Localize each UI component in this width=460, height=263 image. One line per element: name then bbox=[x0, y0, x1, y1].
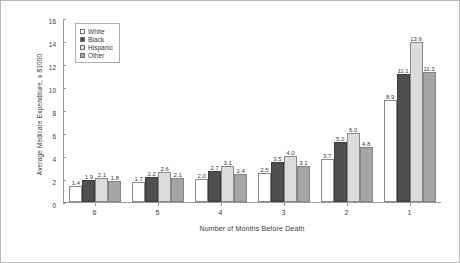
y-axis-tick-label: 8 bbox=[52, 110, 63, 117]
y-axis-tick: 10 bbox=[49, 79, 63, 97]
y-axis-tick: 4 bbox=[52, 148, 63, 166]
x-axis-tick-label: 3 bbox=[252, 203, 315, 216]
bar-value-label: 11.1 bbox=[397, 68, 408, 74]
bar[interactable]: 1.8 bbox=[108, 181, 121, 202]
y-axis-tick: 2 bbox=[52, 171, 63, 189]
bar[interactable]: 5.2 bbox=[334, 142, 347, 202]
bar[interactable]: 2.1 bbox=[95, 178, 108, 202]
bar[interactable]: 2.2 bbox=[145, 177, 158, 202]
bar-value-label: 3.1 bbox=[299, 160, 307, 166]
bar-value-label: 1.4 bbox=[72, 180, 80, 186]
bar-value-label: 3.1 bbox=[223, 160, 231, 166]
legend-swatch-icon bbox=[80, 29, 85, 34]
x-axis-tick-label: 2 bbox=[315, 203, 378, 216]
bar-value-label: 1.8 bbox=[111, 175, 119, 181]
bar-value-label: 5.2 bbox=[336, 136, 344, 142]
y-axis-tick-label: 10 bbox=[49, 87, 63, 94]
y-axis-tick-label: 0 bbox=[52, 202, 63, 209]
x-axis-tick-label: 6 bbox=[63, 203, 126, 216]
bar-value-label: 13.9 bbox=[410, 36, 422, 42]
bar[interactable]: 13.9 bbox=[410, 42, 423, 202]
x-axis-tick-mark bbox=[95, 203, 96, 206]
legend-item[interactable]: Other bbox=[80, 51, 113, 59]
x-axis-tick-mark bbox=[347, 203, 348, 206]
bar[interactable]: 6.0 bbox=[347, 133, 360, 202]
bar-value-label: 2.5 bbox=[260, 167, 268, 173]
bar-groups: 1.41.92.11.81.72.22.62.12.02.73.12.42.53… bbox=[64, 19, 441, 202]
bar-group: 8.911.113.911.3 bbox=[378, 19, 441, 202]
y-axis-tick: 14 bbox=[49, 33, 63, 51]
y-axis-tick: 8 bbox=[52, 102, 63, 120]
x-axis-tick-label: 4 bbox=[189, 203, 252, 216]
x-axis-tick-label: 5 bbox=[126, 203, 189, 216]
x-axis-tick-mark bbox=[221, 203, 222, 206]
y-axis-tick: 0 bbox=[52, 194, 63, 212]
bar-value-label: 2.1 bbox=[174, 172, 182, 178]
y-axis-tick-label: 16 bbox=[49, 18, 63, 25]
bar[interactable]: 3.1 bbox=[221, 166, 234, 202]
legend-item-label: White bbox=[88, 28, 105, 35]
legend-swatch-icon bbox=[80, 37, 85, 42]
legend-item-label: Hispanic bbox=[88, 44, 113, 51]
bar-value-label: 2.1 bbox=[98, 172, 106, 178]
bar[interactable]: 1.9 bbox=[82, 180, 95, 202]
bar[interactable]: 2.0 bbox=[195, 179, 208, 202]
y-axis-tick-label: 14 bbox=[49, 41, 63, 48]
bar[interactable]: 2.5 bbox=[258, 173, 271, 202]
y-axis-tick: 16 bbox=[49, 10, 63, 28]
bar-value-label: 6.0 bbox=[349, 127, 357, 133]
bar[interactable]: 2.7 bbox=[208, 171, 221, 202]
legend-swatch-icon bbox=[80, 45, 85, 50]
bar[interactable]: 11.1 bbox=[397, 74, 410, 202]
bar-value-label: 1.9 bbox=[85, 174, 93, 180]
bar-value-label: 2.2 bbox=[148, 171, 156, 177]
legend-item-label: Black bbox=[88, 36, 104, 43]
bar[interactable]: 2.4 bbox=[234, 174, 247, 202]
bar[interactable]: 3.1 bbox=[297, 166, 310, 202]
legend-item[interactable]: Hispanic bbox=[80, 43, 113, 51]
bar[interactable]: 8.9 bbox=[384, 100, 397, 202]
legend-item-label: Other bbox=[88, 52, 104, 59]
bar-value-label: 4.0 bbox=[286, 150, 294, 156]
bar-value-label: 3.5 bbox=[273, 156, 281, 162]
bar[interactable]: 11.3 bbox=[423, 72, 436, 202]
bar-value-label: 4.8 bbox=[362, 141, 370, 147]
x-axis-tick-label: 1 bbox=[378, 203, 441, 216]
y-axis-tick-label: 12 bbox=[49, 64, 63, 71]
legend-item[interactable]: White bbox=[80, 27, 113, 35]
y-axis-tick: 6 bbox=[52, 125, 63, 143]
bar-value-label: 1.7 bbox=[135, 176, 143, 182]
legend-swatch-icon bbox=[80, 53, 85, 58]
bar-value-label: 8.9 bbox=[386, 94, 394, 100]
chart-legend: WhiteBlackHispanicOther bbox=[75, 23, 120, 63]
bar[interactable]: 1.7 bbox=[132, 182, 145, 202]
bar-value-label: 2.7 bbox=[210, 165, 218, 171]
bar[interactable]: 4.0 bbox=[284, 156, 297, 202]
bar-group: 3.75.26.04.8 bbox=[315, 19, 378, 202]
y-axis-title: Average Medicare Expenditure, x $1000 bbox=[36, 15, 43, 215]
bar-value-label: 3.7 bbox=[323, 153, 331, 159]
bar[interactable]: 3.5 bbox=[271, 162, 284, 202]
bar[interactable]: 4.8 bbox=[360, 147, 373, 202]
x-axis-ticks: 654321 bbox=[63, 203, 441, 216]
bar-group: 1.72.22.62.1 bbox=[127, 19, 190, 202]
x-axis-tick-mark bbox=[284, 203, 285, 206]
bar-group: 2.53.54.03.1 bbox=[252, 19, 315, 202]
bar[interactable]: 1.4 bbox=[69, 186, 82, 202]
x-axis-tick-mark bbox=[410, 203, 411, 206]
x-axis-tick-mark bbox=[158, 203, 159, 206]
bar-value-label: 11.3 bbox=[423, 66, 434, 72]
chart-figure: Average Medicare Expenditure, x $1000 02… bbox=[0, 0, 460, 263]
y-axis-tick: 12 bbox=[49, 56, 63, 74]
bar[interactable]: 3.7 bbox=[321, 159, 334, 202]
y-axis-tick-label: 4 bbox=[52, 156, 63, 163]
bar-value-label: 2.0 bbox=[197, 173, 205, 179]
bar-value-label: 2.6 bbox=[161, 166, 169, 172]
y-axis-tick-label: 2 bbox=[52, 179, 63, 186]
bar-value-label: 2.4 bbox=[236, 168, 244, 174]
bar[interactable]: 2.1 bbox=[171, 178, 184, 202]
bar[interactable]: 2.6 bbox=[158, 172, 171, 202]
y-axis-tick-label: 6 bbox=[52, 133, 63, 140]
legend-item[interactable]: Black bbox=[80, 35, 113, 43]
x-axis-title: Number of Months Before Death bbox=[63, 225, 441, 232]
